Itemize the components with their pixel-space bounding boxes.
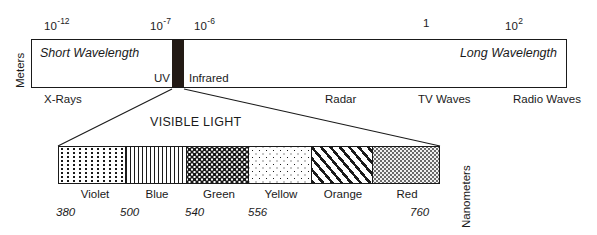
color-segment-blue (126, 147, 188, 183)
infrared-label: Infrared (189, 72, 229, 84)
wavelength-value: 500 (120, 206, 139, 218)
color-label-yellow: Yellow (250, 188, 312, 200)
visible-light-band-marker (172, 40, 184, 87)
axis-tick-label: 10-6 (194, 18, 214, 32)
wavelength-value: 556 (248, 206, 267, 218)
color-segment-yellow (249, 147, 312, 183)
color-segment-green (187, 147, 249, 183)
spectrum-band-label: Radar (325, 93, 356, 105)
visible-light-title: VISIBLE LIGHT (150, 115, 241, 129)
meters-axis-label: Meters (14, 53, 26, 88)
long-wavelength-label: Long Wavelength (460, 46, 557, 60)
uv-label: UV (154, 72, 170, 84)
tick-base: 10 (150, 20, 163, 32)
tick-base: 1 (423, 17, 429, 29)
color-segment-red (373, 147, 439, 183)
electromagnetic-spectrum-figure: 10-1210-710-61102 Meters Short Wavelengt… (0, 0, 597, 235)
tick-base: 10 (44, 20, 57, 32)
spectrum-band-label: Radio Waves (513, 93, 581, 105)
tick-exponent: 2 (518, 16, 523, 26)
color-segment-violet (59, 147, 126, 183)
tick-base: 10 (194, 20, 207, 32)
spectrum-band-label: X-Rays (44, 93, 82, 105)
color-segment-orange (312, 147, 374, 183)
wavelength-value: 760 (410, 206, 429, 218)
color-label-orange: Orange (312, 188, 374, 200)
wavelength-value: 540 (185, 206, 204, 218)
tick-exponent: -7 (163, 16, 171, 26)
spectrum-bar: Short Wavelength Long Wavelength UV Infr… (31, 39, 567, 88)
tick-exponent: -6 (207, 16, 215, 26)
color-label-blue: Blue (126, 188, 188, 200)
tick-base: 10 (505, 20, 518, 32)
color-label-green: Green (188, 188, 250, 200)
axis-tick-label: 102 (505, 18, 523, 32)
axis-tick-label: 1 (423, 18, 429, 30)
axis-tick-label: 10-12 (44, 18, 69, 32)
color-label-violet: Violet (64, 188, 126, 200)
nanometers-axis-label: Nanometers (460, 165, 472, 228)
tick-exponent: -12 (57, 16, 69, 26)
visible-light-color-bar (58, 146, 440, 184)
short-wavelength-label: Short Wavelength (40, 46, 139, 60)
wavelength-value: 380 (56, 206, 75, 218)
color-label-red: Red (374, 188, 440, 200)
spectrum-band-label: TV Waves (418, 93, 471, 105)
axis-tick-label: 10-7 (150, 18, 170, 32)
